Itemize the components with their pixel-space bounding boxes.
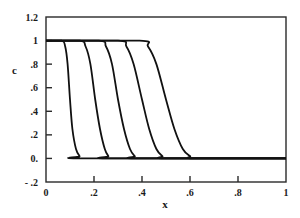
x-tick-label: .8 xyxy=(234,187,242,198)
x-axis-ticks: 0.2.4.6.81 xyxy=(44,176,289,198)
y-tick-label: .6 xyxy=(31,82,39,93)
y-tick-label: .8 xyxy=(31,59,39,70)
x-axis-label: x xyxy=(162,198,168,210)
y-tick-label: 0. xyxy=(31,153,39,164)
y-tick-label: - .2 xyxy=(25,177,38,188)
profile-curve-5 xyxy=(46,41,286,159)
y-tick-label: .2 xyxy=(31,129,39,140)
x-tick-label: .6 xyxy=(186,187,194,198)
x-tick-label: .4 xyxy=(138,187,146,198)
y-tick-label: .4 xyxy=(31,106,39,117)
x-tick-label: 0 xyxy=(44,187,49,198)
chart: 1.21.8.6.4.20.- .2 0.2.4.6.81 c x xyxy=(0,0,300,218)
x-tick-label: 1 xyxy=(284,187,289,198)
y-tick-label: 1 xyxy=(33,35,38,46)
x-tick-label: .2 xyxy=(90,187,98,198)
y-axis-label: c xyxy=(12,64,17,76)
y-axis-ticks: 1.21.8.6.4.20.- .2 xyxy=(25,12,52,188)
curves xyxy=(46,41,286,159)
y-tick-label: 1.2 xyxy=(26,12,39,23)
